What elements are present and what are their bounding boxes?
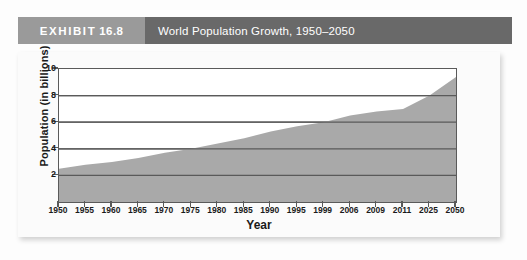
plot-inner xyxy=(59,69,456,202)
exhibit-label-text: EXHIBIT xyxy=(40,25,97,37)
exhibit-title-bar: World Population Growth, 1950–2050 xyxy=(145,17,512,44)
exhibit-header: EXHIBIT 16.8 World Population Growth, 19… xyxy=(18,17,512,44)
y-tick-label: 2 xyxy=(26,169,56,179)
chart-area: Population (in billions) 246810 19501955… xyxy=(18,52,500,237)
area-chart-svg xyxy=(59,69,456,202)
x-axis-title: Year xyxy=(18,218,500,232)
exhibit-tag: EXHIBIT 16.8 xyxy=(18,17,145,44)
y-tick-label: 6 xyxy=(26,116,56,126)
y-tick-label: 8 xyxy=(26,90,56,100)
exhibit-title-text: World Population Growth, 1950–2050 xyxy=(158,25,355,37)
plot-region xyxy=(58,68,457,203)
x-tick-label: 2050 xyxy=(435,205,475,215)
y-tick-label: 4 xyxy=(26,143,56,153)
exhibit-figure: EXHIBIT 16.8 World Population Growth, 19… xyxy=(0,0,527,260)
chart-card: Population (in billions) 246810 19501955… xyxy=(18,52,500,237)
exhibit-number-text: 16.8 xyxy=(99,25,123,37)
y-tick-label: 10 xyxy=(26,63,56,73)
